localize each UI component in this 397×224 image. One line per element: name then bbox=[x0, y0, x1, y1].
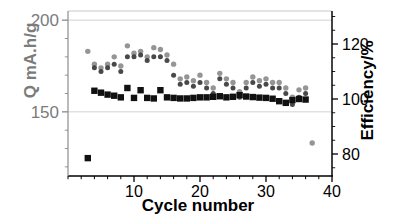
data-point bbox=[164, 52, 169, 57]
data-point bbox=[303, 91, 308, 96]
data-point bbox=[132, 54, 137, 59]
data-point bbox=[104, 91, 110, 97]
data-point bbox=[178, 82, 183, 87]
data-point bbox=[171, 73, 176, 78]
data-point bbox=[224, 76, 229, 81]
x-tick-label: 40 bbox=[323, 183, 341, 200]
plot-canvas: 10203040 150200 80100120 bbox=[0, 0, 397, 224]
data-point bbox=[223, 94, 229, 100]
data-point bbox=[151, 95, 157, 101]
data-point bbox=[269, 96, 275, 102]
data-point bbox=[105, 65, 110, 70]
data-point bbox=[277, 86, 282, 91]
data-point bbox=[184, 74, 189, 79]
data-point bbox=[197, 72, 202, 77]
data-point bbox=[190, 95, 196, 101]
data-point bbox=[125, 54, 130, 59]
data-point bbox=[112, 54, 117, 59]
data-point bbox=[256, 94, 262, 100]
data-point bbox=[283, 100, 289, 106]
data-point bbox=[191, 78, 196, 83]
data-point bbox=[217, 93, 223, 99]
data-point bbox=[250, 94, 256, 100]
data-point bbox=[244, 80, 249, 85]
data-point bbox=[145, 58, 150, 63]
data-point bbox=[85, 49, 90, 54]
data-point bbox=[158, 47, 163, 52]
data-point bbox=[204, 86, 209, 91]
data-point bbox=[211, 85, 216, 90]
data-point bbox=[98, 89, 104, 95]
data-point bbox=[283, 91, 288, 96]
right-axis-ticks bbox=[332, 17, 338, 168]
data-point bbox=[302, 96, 308, 102]
data-point bbox=[198, 80, 203, 85]
data-point bbox=[85, 155, 91, 161]
data-point bbox=[118, 94, 124, 100]
data-point bbox=[157, 87, 163, 93]
data-point bbox=[230, 80, 235, 85]
data-point bbox=[276, 98, 282, 104]
data-point bbox=[270, 80, 275, 85]
data-point bbox=[118, 63, 123, 68]
data-point bbox=[303, 85, 308, 90]
data-point bbox=[217, 76, 222, 81]
left-axis-ticks bbox=[62, 20, 68, 167]
data-point bbox=[137, 87, 143, 93]
data-point bbox=[184, 80, 189, 85]
data-series-layer bbox=[85, 43, 315, 161]
data-point bbox=[138, 53, 143, 58]
data-point bbox=[151, 45, 156, 50]
chart-figure: 10203040 150200 80100120 Q mA.h/g Effici… bbox=[0, 0, 397, 224]
data-point bbox=[99, 69, 104, 74]
y-axis-right-title: Efficiency/% bbox=[359, 35, 376, 147]
data-point bbox=[310, 140, 315, 145]
data-point bbox=[257, 78, 262, 83]
data-point bbox=[250, 80, 255, 85]
data-point bbox=[158, 54, 163, 59]
data-point bbox=[283, 85, 288, 90]
data-point bbox=[244, 86, 249, 91]
data-point bbox=[170, 95, 176, 101]
data-point bbox=[92, 65, 97, 70]
data-point bbox=[224, 82, 229, 87]
data-point bbox=[236, 92, 242, 98]
data-point bbox=[165, 58, 170, 63]
data-point bbox=[243, 93, 249, 99]
x-axis-ticks bbox=[68, 176, 332, 182]
data-point bbox=[131, 95, 137, 101]
data-point bbox=[171, 61, 176, 66]
data-point bbox=[203, 94, 209, 100]
data-point bbox=[217, 71, 222, 76]
data-point bbox=[91, 88, 97, 94]
data-point bbox=[124, 85, 130, 91]
y-axis-left-title: Q mA.h/g bbox=[22, 7, 39, 115]
x-axis-title: Cycle number bbox=[88, 197, 308, 214]
data-point bbox=[296, 87, 301, 92]
data-point bbox=[250, 74, 255, 79]
data-point bbox=[164, 94, 170, 100]
data-point bbox=[263, 76, 268, 81]
data-point bbox=[204, 80, 209, 85]
data-point bbox=[144, 95, 150, 101]
data-point bbox=[118, 69, 123, 74]
right-tick-label: 80 bbox=[342, 146, 360, 163]
data-point bbox=[289, 97, 295, 103]
data-point bbox=[112, 62, 117, 67]
data-point bbox=[125, 43, 130, 48]
data-point bbox=[177, 95, 183, 101]
data-point bbox=[257, 84, 262, 89]
data-point bbox=[178, 76, 183, 81]
data-point bbox=[263, 95, 269, 101]
data-point bbox=[111, 93, 117, 99]
data-point bbox=[270, 86, 275, 91]
data-point bbox=[231, 86, 236, 91]
data-point bbox=[230, 94, 236, 100]
data-point bbox=[296, 96, 302, 102]
series-square bbox=[85, 85, 309, 162]
data-point bbox=[151, 54, 156, 59]
data-point bbox=[277, 80, 282, 85]
data-point bbox=[210, 94, 216, 100]
data-point bbox=[264, 82, 269, 87]
data-point bbox=[191, 84, 196, 89]
